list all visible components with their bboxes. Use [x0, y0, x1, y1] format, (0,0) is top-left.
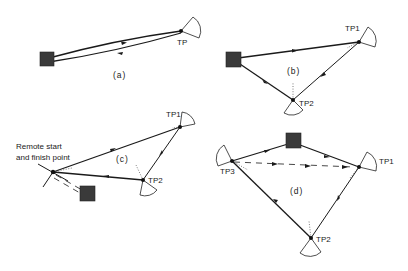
panel-d: TP3 TP1 TP2 (d): [216, 133, 394, 256]
leg-3: [53, 172, 143, 180]
dashed-route: [234, 162, 354, 167]
return-leg: [49, 33, 181, 62]
base-square-icon: [40, 52, 54, 66]
tp2-label: TP2: [148, 176, 163, 185]
base-square-icon: [226, 52, 241, 67]
turning-point-marker: [357, 165, 361, 169]
bisector-line: [136, 165, 143, 180]
observation-sector-icon: [216, 145, 232, 166]
arrow-icon: [159, 150, 163, 156]
panel-label: (d): [290, 186, 303, 196]
turning-point-marker: [357, 40, 361, 44]
panel-label: (c): [116, 154, 129, 164]
leg-2: [293, 42, 359, 100]
leg-1: [53, 127, 180, 172]
start-line: [43, 172, 53, 187]
remote-start-label: Remote start: [16, 142, 63, 151]
start-finish-marker: [51, 170, 55, 174]
task-diagrams-figure: TP (a) TP1 TP2 (b): [0, 0, 408, 271]
observation-sector-icon: [359, 27, 376, 47]
leg-1: [300, 145, 359, 167]
leg-3a: [232, 144, 288, 161]
observation-sector-icon: [180, 112, 195, 127]
arrow-icon: [272, 162, 278, 166]
arrow-icon: [264, 150, 270, 153]
base-square-icon: [286, 133, 301, 148]
turning-point-marker: [141, 178, 145, 182]
tp3-label: TP3: [220, 167, 235, 176]
link-to-base: [56, 175, 82, 190]
arrow-icon: [320, 72, 326, 77]
panel-b: TP1 TP2 (b): [226, 24, 376, 115]
observation-sector-icon: [181, 17, 201, 38]
leg-2: [311, 167, 359, 238]
arrow-icon: [292, 49, 298, 53]
observation-sector-icon: [359, 152, 377, 171]
leg-1: [238, 42, 359, 58]
base-square-icon: [80, 186, 95, 201]
leg-3: [237, 62, 293, 100]
turning-point-marker: [291, 98, 295, 102]
tp2-label: TP2: [299, 99, 314, 108]
tp1-label: TP1: [166, 110, 181, 119]
panel-label: (a): [113, 70, 126, 80]
tp2-label: TP2: [316, 235, 331, 244]
panel-label: (b): [287, 66, 300, 76]
arrow-icon: [117, 52, 123, 55]
leg-3: [232, 161, 311, 238]
turning-point-marker: [309, 236, 313, 240]
panel-a: TP (a): [40, 17, 201, 80]
arrow-icon: [262, 79, 268, 84]
tp1-label: TP1: [379, 157, 394, 166]
arrow-icon: [305, 164, 311, 168]
remote-start-label: and finish point: [16, 153, 71, 162]
turning-point-marker: [178, 125, 182, 129]
arrow-icon: [121, 42, 127, 46]
turning-point-marker: [179, 29, 183, 33]
panel-c: Remote start and finish point TP1 TP2 (c…: [16, 110, 195, 201]
outbound-leg: [49, 31, 181, 58]
tp1-label: TP1: [345, 24, 360, 33]
tp-label: TP: [177, 38, 187, 47]
turning-point-marker: [230, 159, 234, 163]
arrow-icon: [342, 165, 348, 169]
